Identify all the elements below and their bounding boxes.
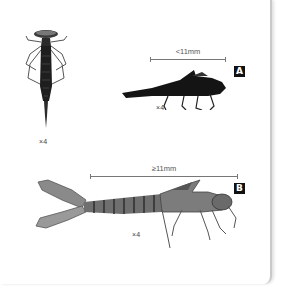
specimen-a-badge: A: [234, 66, 245, 77]
magnification-label: ×4: [39, 138, 47, 145]
scale-label-a: <11mm: [150, 47, 226, 56]
scale-line: [90, 176, 238, 177]
magnification-label: ×4: [156, 104, 164, 111]
document-page: ×4 <11mm A ×4 ≥11mm B: [0, 0, 272, 284]
scale-label-b: ≥11mm: [90, 164, 238, 173]
larva-dorsal-illustration: [22, 26, 70, 134]
scale-bar-a: <11mm: [150, 47, 226, 63]
larva-b-lateral-illustration: [32, 178, 242, 260]
larva-a-lateral-illustration: [122, 66, 230, 110]
scale-line: [150, 59, 226, 60]
magnification-label: ×4: [132, 231, 140, 238]
